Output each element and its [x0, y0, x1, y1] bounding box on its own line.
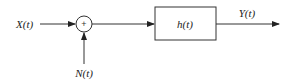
input-label: X(t) — [15, 18, 33, 31]
plus-icon: + — [81, 19, 86, 29]
noise-label: N(t) — [74, 67, 93, 80]
filter-label: h(t) — [177, 18, 193, 31]
block-diagram: X(t) + N(t) h(t) Y(t) — [0, 0, 293, 83]
summing-junction: + — [76, 16, 92, 32]
filter-block: h(t) — [155, 7, 216, 40]
output-label: Y(t) — [239, 7, 256, 20]
